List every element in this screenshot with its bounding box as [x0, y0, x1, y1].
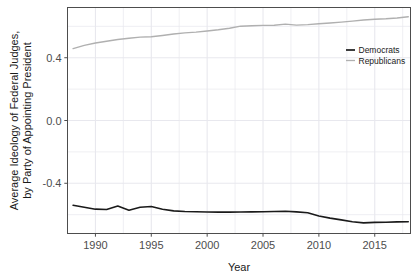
yaxis-title-line-1: Average Ideology of Federal Judges,: [8, 31, 20, 211]
legend-label-republicans: Republicans: [359, 56, 406, 66]
yaxis-tick-label: -0.4: [43, 177, 62, 189]
xaxis-tick-label: 2010: [307, 239, 331, 251]
yaxis-tick-label: 0.4: [46, 52, 61, 64]
xaxis-tick-label: 2015: [363, 239, 387, 251]
xaxis-title: Year: [228, 261, 251, 273]
yaxis-tick-label: 0.0: [46, 115, 61, 127]
chart-canvas: 1990199520002005201020150.40.0-0.4YearAv…: [0, 0, 418, 279]
ideology-line-chart: 1990199520002005201020150.40.0-0.4YearAv…: [0, 0, 418, 279]
legend-label-democrats: Democrats: [359, 45, 400, 55]
xaxis-tick-label: 1990: [83, 239, 107, 251]
xaxis-tick-label: 1995: [139, 239, 163, 251]
yaxis-title-line-2: by Party of Appointing President: [21, 42, 33, 199]
xaxis-tick-label: 2000: [195, 239, 219, 251]
xaxis-tick-label: 2005: [251, 239, 275, 251]
